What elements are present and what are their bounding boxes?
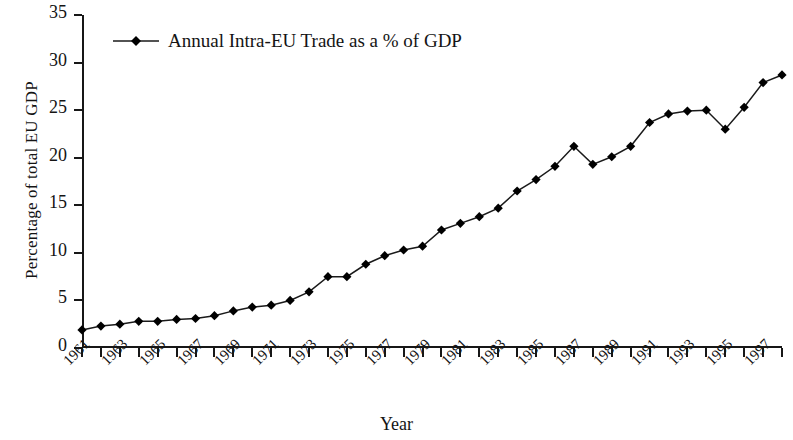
legend-line-diamond-icon [113,34,159,48]
y-axis-tick: 30 [74,62,82,64]
chart-legend: Annual Intra-EU Trade as a % of GDP [113,28,462,54]
y-axis-tick: 20 [74,157,82,159]
y-axis-tick-label: 15 [49,192,67,212]
y-axis-tick-label: 20 [49,145,67,165]
y-axis-tick: 35 [74,14,82,16]
x-axis-tick [781,348,783,357]
data-point-marker [456,219,465,228]
data-point-marker [172,315,181,324]
data-point-marker [96,322,105,331]
y-axis-tick-label: 25 [49,97,67,117]
y-axis-tick: 25 [74,109,82,111]
legend-label: Annual Intra-EU Trade as a % of GDP [168,30,462,52]
y-axis-tick-label: 5 [58,287,67,307]
x-axis-title: Year [0,414,793,435]
data-series-line [82,15,782,348]
y-axis-tick-label: 35 [49,2,67,22]
series-line [82,75,782,330]
data-point-marker [267,301,276,310]
data-point-marker [210,311,219,320]
y-axis-tick-label: 30 [49,50,67,70]
data-point-marker [229,306,238,315]
data-point-marker [248,302,257,311]
data-point-marker [153,317,162,326]
data-point-marker [475,212,484,221]
data-point-marker [115,320,124,329]
data-point-marker [361,260,370,269]
data-point-marker [286,296,295,305]
data-point-marker [342,272,351,281]
data-point-marker [77,325,86,334]
y-axis-tick-label: 10 [49,240,67,260]
data-point-marker [380,251,389,260]
data-point-marker [683,106,692,115]
plot-area: 05101520253035 [82,15,782,348]
y-axis-title: Percentage of total EU GDP [22,30,42,330]
data-point-marker [191,314,200,323]
data-point-marker [399,245,408,254]
data-point-marker [664,109,673,118]
chart-figure: Percentage of total EU GDP 0510152025303… [0,0,793,440]
data-point-marker [531,175,540,184]
y-axis-tick: 15 [74,204,82,206]
y-axis-tick: 10 [74,252,82,254]
data-point-marker [777,70,786,79]
data-point-marker [134,317,143,326]
y-axis-tick: 5 [74,299,82,301]
data-point-marker [607,152,616,161]
